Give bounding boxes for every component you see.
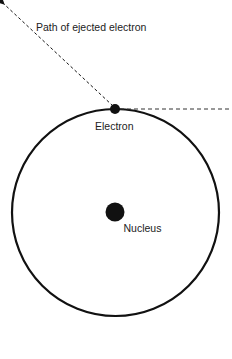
- atom-diagram: Path of ejected electron Electron Nucleu…: [0, 0, 232, 359]
- ejected-path-arrow: [4, 4, 113, 106]
- nucleus-dot: [106, 203, 125, 222]
- electron-dot: [110, 104, 120, 114]
- path-label: Path of ejected electron: [36, 21, 146, 33]
- electron-label: Electron: [95, 120, 134, 132]
- nucleus-label: Nucleus: [124, 222, 162, 234]
